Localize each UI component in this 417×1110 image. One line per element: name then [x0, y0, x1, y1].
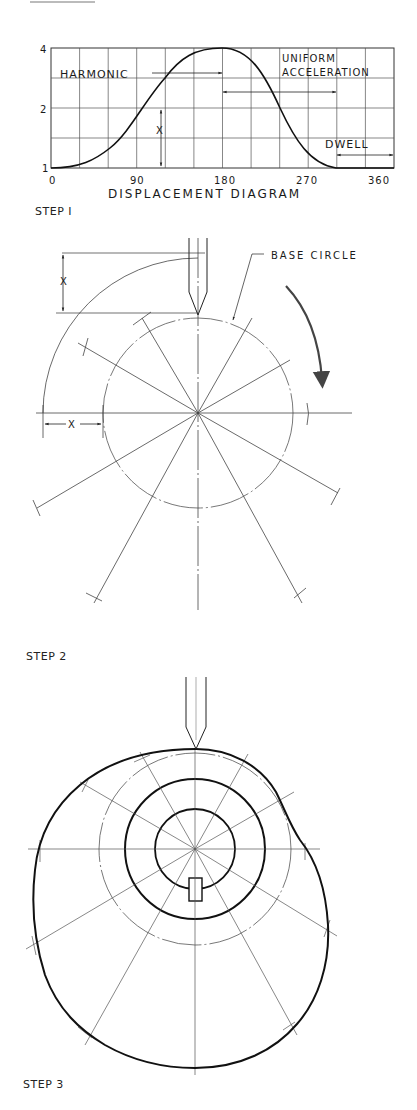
harmonic-label: HARMONIC — [60, 68, 129, 81]
y-tick-1: 1 — [42, 163, 49, 174]
step1-construction: X X BASE CIRCLE — [33, 238, 358, 610]
rotation-direction-arrow — [286, 286, 322, 380]
uniform-label-line1: UNIFORM — [282, 53, 336, 64]
uniform-label-line2: ACCELERATION — [282, 67, 370, 78]
x-tick-180: 180 — [214, 175, 236, 186]
x-tick-0: 0 — [49, 175, 56, 186]
x-tick-270: 270 — [296, 175, 318, 186]
y-tick-2: 2 — [40, 104, 47, 115]
base-circle-label: BASE CIRCLE — [271, 250, 358, 261]
step1-label: STEP I — [35, 205, 72, 218]
follower-step3 — [186, 677, 206, 749]
x-dimension-label: X — [156, 125, 164, 136]
step3-label: STEP 3 — [23, 1078, 64, 1091]
keyway — [189, 878, 202, 901]
x-tick-90: 90 — [130, 175, 145, 186]
dwell-label: DWELL — [325, 138, 369, 151]
y-tick-4: 4 — [40, 44, 47, 55]
chart-title: DISPLACEMENT DIAGRAM — [108, 187, 301, 201]
step3-cam-profile — [26, 677, 337, 1075]
x-tick-360: 360 — [368, 175, 390, 186]
step1-x-label-left: X — [68, 419, 76, 430]
displacement-diagram: 4 2 1 0 90 180 270 360 DISPLACEMENT DIAG… — [40, 44, 394, 201]
step1-x-label-top: X — [60, 276, 68, 287]
cam-profile — [33, 749, 328, 1068]
cam-construction-drawing: 4 2 1 0 90 180 270 360 DISPLACEMENT DIAG… — [0, 0, 417, 1110]
step2-label: STEP 2 — [26, 650, 67, 663]
